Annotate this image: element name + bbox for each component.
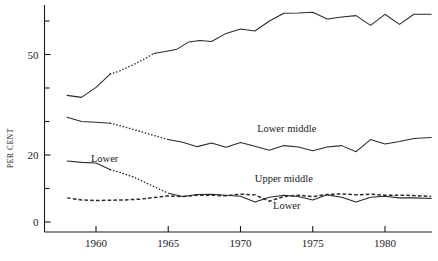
y-axis-tick-labels: 50 20 0: [28, 49, 40, 229]
series-line-lower-dotted: [110, 170, 168, 193]
line-chart-plot: 50 20 0 1960 1965 1970 1975 1980 PER CEN…: [0, 0, 438, 261]
x-tick-label-1980: 1980: [374, 237, 397, 249]
series-label-lower-middle: Lower middle: [257, 123, 317, 134]
y-axis-title: PER CENT: [6, 128, 15, 168]
series-line-lower-middle-left: [67, 117, 110, 123]
x-axis-ticks: [96, 226, 385, 232]
y-axis-ticks: [45, 21, 51, 222]
x-tick-label-1970: 1970: [230, 237, 253, 249]
series-label-upper-middle: Upper middle: [255, 173, 313, 184]
series-label-lower-right: Lower: [273, 200, 301, 211]
x-tick-label-1965: 1965: [157, 237, 180, 249]
x-axis-tick-labels: 1960 1965 1970 1975 1980: [85, 237, 397, 249]
series-line-lower-middle-dotted: [110, 123, 168, 139]
y-tick-label-0: 0: [33, 216, 39, 228]
series-lines-group: [67, 12, 431, 202]
y-tick-label-20: 20: [28, 149, 40, 161]
x-tick-label-1975: 1975: [302, 237, 325, 249]
series-line-middle-middle-dotted: [110, 54, 153, 74]
axes-group: [45, 5, 433, 232]
series-line-lower-middle-right: [168, 138, 431, 152]
series-label-lower-left: Lower: [91, 153, 119, 164]
x-tick-label-1960: 1960: [85, 237, 108, 249]
series-line-middle-middle-left: [67, 74, 110, 97]
y-tick-label-50: 50: [28, 49, 40, 61]
chart-container: 50 20 0 1960 1965 1970 1975 1980 PER CEN…: [0, 0, 438, 261]
series-annotation-labels: Middle middle Lower middle Upper middle …: [91, 0, 317, 211]
series-line-middle-middle-right: [154, 12, 431, 53]
